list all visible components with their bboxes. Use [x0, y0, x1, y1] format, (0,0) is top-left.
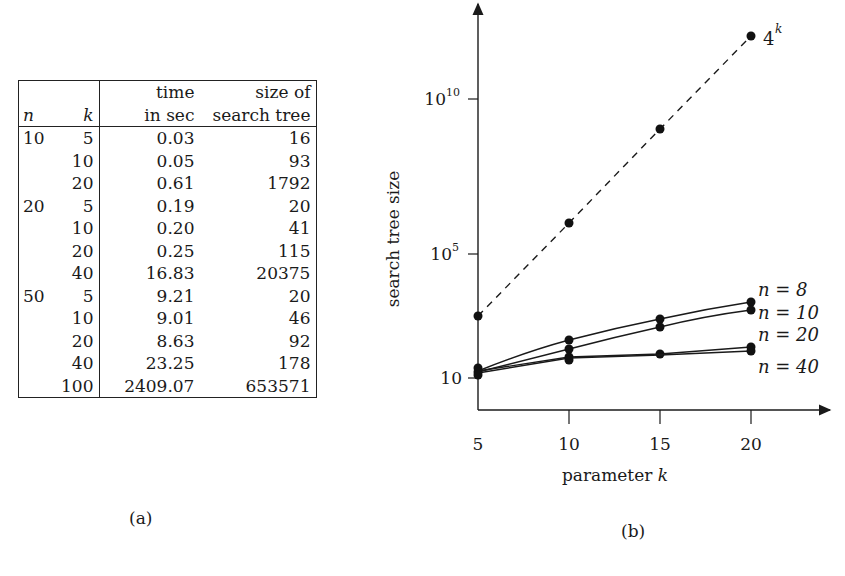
series-n10 [478, 306, 756, 373]
ytick-10e5-exp: 5 [452, 241, 459, 254]
caption-b: (b) [621, 521, 645, 541]
label-n40: n = 40 [758, 356, 819, 377]
label-n8: n = 8 [758, 279, 808, 300]
xtick-10: 10 [558, 434, 580, 454]
xtick-20: 20 [740, 434, 762, 454]
series-n8 [478, 298, 756, 372]
ytick-10: 10 [440, 368, 462, 388]
cluster-k5 [474, 364, 483, 380]
label-n20: n = 20 [758, 324, 819, 345]
label-n10: n = 10 [758, 302, 819, 323]
ytick-10e10-exp: 10 [446, 86, 460, 99]
y-axis-label: search tree size [383, 171, 403, 308]
search-tree-chart: 10 10 5 10 10 5 10 15 20 parameter k sea… [0, 0, 845, 576]
x-ticks: 5 10 15 20 [473, 410, 762, 454]
ytick-10e10: 10 [424, 89, 446, 109]
xtick-5: 5 [473, 434, 484, 454]
x-axis-label: parameter k [562, 465, 668, 485]
label-4k-exp: k [775, 22, 782, 36]
series-4k: 4 k [474, 22, 783, 321]
label-4k: 4 [763, 28, 774, 49]
y-ticks: 10 10 5 10 10 [424, 86, 478, 388]
ytick-10e5: 10 [430, 244, 452, 264]
xtick-15: 15 [649, 434, 671, 454]
